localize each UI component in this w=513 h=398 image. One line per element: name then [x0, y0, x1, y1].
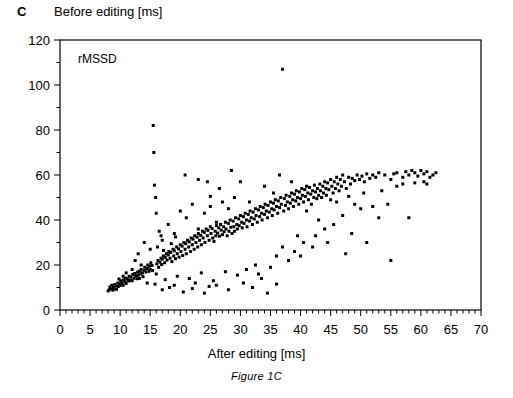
data-point [245, 268, 248, 271]
data-point [236, 274, 239, 277]
y-tick-label: 120 [28, 33, 50, 48]
data-point [203, 231, 206, 234]
data-point [224, 270, 227, 273]
data-point [206, 180, 209, 183]
data-point [404, 170, 407, 173]
data-point [326, 241, 329, 244]
data-point [197, 178, 200, 181]
data-point [181, 254, 184, 257]
data-point [302, 201, 305, 204]
data-point [281, 68, 284, 71]
data-point [179, 250, 182, 253]
x-tick-label: 50 [353, 322, 367, 337]
data-point [413, 171, 416, 174]
data-point [194, 241, 197, 244]
x-axis-title: After editing [ms] [0, 346, 513, 361]
x-tick-label: 15 [143, 322, 157, 337]
data-point [212, 279, 215, 282]
data-point [221, 233, 224, 236]
data-point [167, 223, 170, 226]
data-point [191, 243, 194, 246]
data-point [232, 220, 235, 223]
data-point [413, 181, 416, 184]
data-point [187, 246, 190, 249]
x-tick-label: 25 [203, 322, 217, 337]
data-point [356, 174, 359, 177]
data-point [188, 240, 191, 243]
data-point [281, 246, 284, 249]
data-point [162, 249, 165, 252]
data-point [250, 216, 253, 219]
data-point [227, 207, 230, 210]
data-point [293, 250, 296, 253]
x-tick-label: 5 [86, 322, 93, 337]
data-point [275, 283, 278, 286]
data-point [349, 183, 352, 186]
data-point [307, 198, 310, 201]
data-point [371, 205, 374, 208]
data-point [275, 255, 278, 258]
data-point [115, 288, 118, 291]
scatter-points [107, 68, 438, 295]
data-point [314, 190, 317, 193]
data-point [268, 211, 271, 214]
data-point [279, 196, 282, 199]
data-point [347, 195, 350, 198]
data-point [395, 171, 398, 174]
data-point [251, 223, 254, 226]
data-point [332, 223, 335, 226]
x-tick-label: 40 [293, 322, 307, 337]
x-tick-label: 60 [414, 322, 428, 337]
figure-panel: C Before editing [ms] rMSSD 051015202530… [0, 0, 513, 398]
data-point [233, 230, 236, 233]
data-point [386, 203, 389, 206]
data-point [251, 286, 254, 289]
data-point [242, 282, 245, 285]
data-point [160, 263, 163, 266]
data-point [125, 271, 128, 274]
data-point [184, 242, 187, 245]
data-point [200, 271, 203, 274]
data-point [203, 212, 206, 215]
data-point [238, 224, 241, 227]
data-point [334, 187, 337, 190]
data-point [206, 234, 209, 237]
data-point [305, 185, 308, 188]
data-point [275, 205, 278, 208]
data-point [286, 201, 289, 204]
data-point [179, 210, 182, 213]
x-tick-label: 55 [384, 322, 398, 337]
data-point [288, 195, 291, 198]
y-tick-label: 0 [43, 303, 50, 318]
data-point [232, 225, 235, 228]
data-point [163, 261, 166, 264]
data-point [152, 151, 155, 154]
data-point [380, 189, 383, 192]
data-point [168, 286, 171, 289]
x-tick-label: 20 [173, 322, 187, 337]
data-point [260, 212, 263, 215]
data-point [345, 187, 348, 190]
data-point [431, 174, 434, 177]
data-point [155, 273, 158, 276]
data-point [284, 204, 287, 207]
data-point [290, 192, 293, 195]
data-point [154, 196, 157, 199]
data-point [131, 268, 134, 271]
data-point [265, 210, 268, 213]
data-point [422, 180, 425, 183]
data-point [315, 197, 318, 200]
data-point [389, 178, 392, 181]
data-point [287, 207, 290, 210]
data-point [230, 169, 233, 172]
data-point [339, 178, 342, 181]
x-tick-label: 10 [113, 322, 127, 337]
data-point [224, 228, 227, 231]
data-point [294, 199, 297, 202]
data-point [290, 180, 293, 183]
data-point [218, 235, 221, 238]
data-point [239, 180, 242, 183]
data-point [157, 266, 160, 269]
data-point [333, 180, 336, 183]
x-tick-label: 35 [263, 322, 277, 337]
